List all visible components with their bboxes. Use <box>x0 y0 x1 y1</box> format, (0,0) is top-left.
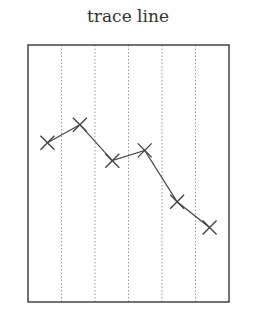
x-marker-icon <box>73 118 87 132</box>
x-marker-icon <box>170 195 184 209</box>
x-marker-icon <box>203 220 217 234</box>
plot-area <box>0 0 256 328</box>
x-marker-icon <box>138 143 152 157</box>
x-marker-icon <box>40 136 54 150</box>
vertical-gridlines <box>62 45 196 302</box>
x-marker-icon <box>105 154 119 168</box>
